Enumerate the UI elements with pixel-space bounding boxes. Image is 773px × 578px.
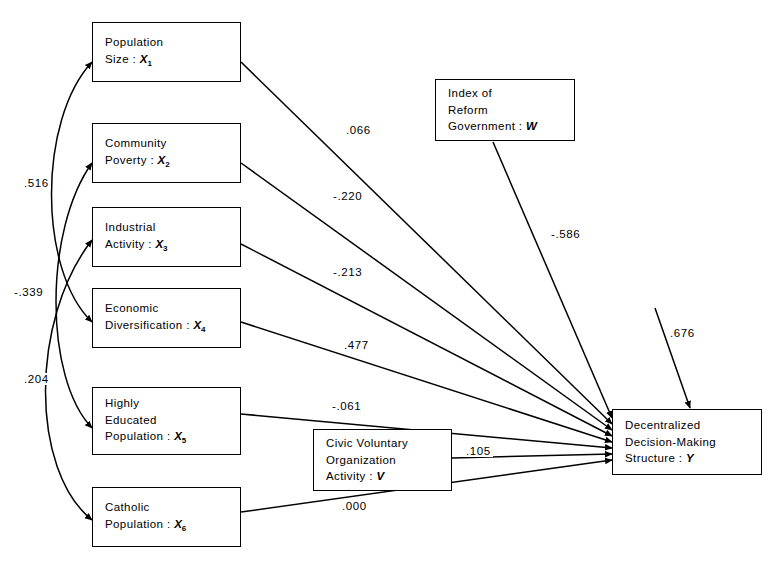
path-label-105: .105 — [464, 445, 493, 457]
node-line-symbol: Population : X6 — [105, 516, 240, 535]
node-line-symbol: Diversification : X4 — [105, 317, 240, 336]
node-line-primary: Catholic — [105, 499, 240, 516]
residual-label-676: .676 — [668, 327, 697, 339]
node-line-middle: Reform — [448, 102, 574, 119]
node-line-symbol: Government : W — [448, 118, 574, 135]
node-line-primary: Economic — [105, 300, 240, 317]
path-label-477: .477 — [342, 339, 371, 351]
node-population-size: Population Size : X1 — [92, 22, 241, 82]
node-line-middle: Educated — [105, 412, 240, 429]
node-line-primary: Decentralized — [625, 417, 761, 434]
node-line-symbol: Structure : Y — [625, 450, 761, 467]
node-line-middle: Organization — [326, 452, 451, 469]
node-line-primary: Highly — [105, 395, 240, 412]
node-civic-voluntary-organization: Civic Voluntary Organization Activity : … — [313, 429, 452, 491]
correlation-arc-x1-x4 — [52, 62, 93, 322]
node-line-primary: Population — [105, 34, 240, 51]
path-x2-y — [241, 163, 612, 430]
node-line-symbol: Size : X1 — [105, 51, 240, 70]
correlation-label-339: -.339 — [12, 286, 45, 298]
node-highly-educated-population: Highly Educated Population : X5 — [92, 387, 241, 455]
node-decentralized-decision-making-structure: Decentralized Decision-Making Structure … — [612, 409, 762, 475]
node-line-middle: Decision-Making — [625, 434, 761, 451]
node-line-primary: Industrial — [105, 219, 240, 236]
path-label-061: -.061 — [330, 400, 363, 412]
node-line-symbol: Activity : V — [326, 468, 451, 485]
node-line-symbol: Population : X5 — [105, 428, 240, 447]
correlation-label-516: .516 — [22, 177, 51, 189]
node-line-primary: Index of — [448, 85, 574, 102]
node-line-symbol: Poverty : X2 — [105, 152, 240, 171]
node-industrial-activity: Industrial Activity : X3 — [92, 207, 241, 267]
node-community-poverty: Community Poverty : X2 — [92, 123, 241, 183]
path-diagram: Population Size : X1 Community Poverty :… — [0, 0, 773, 578]
node-catholic-population: Catholic Population : X6 — [92, 487, 241, 547]
residual-arrow-y — [655, 308, 690, 408]
node-index-reform-government: Index of Reform Government : W — [435, 79, 575, 141]
node-line-symbol: Activity : X3 — [105, 236, 240, 255]
path-label-220: -.220 — [331, 190, 364, 202]
node-line-primary: Civic Voluntary — [326, 435, 451, 452]
path-label-066: .066 — [344, 124, 373, 136]
path-label-586: -.586 — [549, 228, 582, 240]
path-w-y — [493, 142, 612, 418]
correlation-label-204: .204 — [22, 373, 51, 385]
node-economic-diversification: Economic Diversification : X4 — [92, 288, 241, 348]
correlation-arc-x3-x6 — [46, 240, 93, 520]
path-label-000: .000 — [340, 500, 369, 512]
node-line-primary: Community — [105, 135, 240, 152]
path-label-213: -.213 — [331, 266, 364, 278]
